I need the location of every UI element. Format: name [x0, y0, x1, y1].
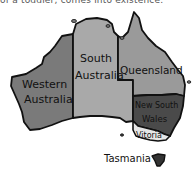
island-dot: [187, 81, 191, 84]
label-new-south-wales-2: Wales: [142, 114, 168, 124]
island-dot: [120, 134, 123, 136]
label-western-australia-2: Australia: [24, 93, 73, 106]
label-tasmania: Tasmania: [103, 153, 151, 164]
label-victoria: Vitoria: [136, 131, 162, 140]
australia-map: Western Australia South Australia Queens…: [0, 0, 196, 174]
island-dot: [120, 37, 124, 40]
island-dot: [106, 25, 110, 28]
label-south-australia-1: South: [80, 52, 112, 65]
island-dot: [72, 19, 77, 22]
label-western-australia-1: Western: [22, 78, 67, 91]
label-new-south-wales-1: New South: [135, 101, 178, 110]
label-queensland: Queensland: [120, 64, 183, 76]
region-tasmania[interactable]: [152, 154, 165, 166]
label-south-australia-2: Australia: [75, 69, 124, 82]
